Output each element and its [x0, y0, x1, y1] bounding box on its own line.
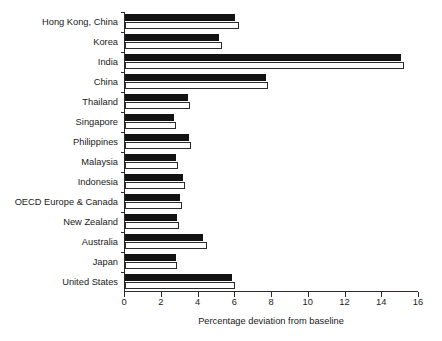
- bar-pair: [125, 112, 418, 132]
- bar-pair: [125, 172, 418, 192]
- bar-series-2: [125, 82, 268, 89]
- category-label: Australia: [0, 232, 118, 252]
- bar-group: [125, 232, 418, 252]
- x-axis-tick: [345, 292, 346, 297]
- bar-pair: [125, 252, 418, 272]
- x-axis-tick: [308, 292, 309, 297]
- bar-series-1: [125, 54, 401, 61]
- bar-series-1: [125, 234, 203, 241]
- bar-series-2: [125, 242, 207, 249]
- x-axis-tick-label: 8: [256, 297, 286, 307]
- bar-chart: Hong Kong, ChinaKoreaIndiaChinaThailandS…: [0, 0, 442, 341]
- category-axis-labels: Hong Kong, ChinaKoreaIndiaChinaThailandS…: [0, 12, 120, 292]
- category-label: Indonesia: [0, 172, 118, 192]
- bar-pair: [125, 212, 418, 232]
- bar-series-2: [125, 162, 178, 169]
- bar-series-2: [125, 102, 190, 109]
- bar-group: [125, 172, 418, 192]
- bar-group: [125, 192, 418, 212]
- bar-series-2: [125, 62, 404, 69]
- bar-group: [125, 132, 418, 152]
- bar-series-2: [125, 282, 235, 289]
- x-axis-tick: [198, 292, 199, 297]
- plot-area: [124, 12, 418, 292]
- bar-pair: [125, 52, 418, 72]
- bar-series-1: [125, 14, 235, 21]
- bar-series-2: [125, 202, 182, 209]
- bar-pair: [125, 192, 418, 212]
- bar-series-1: [125, 34, 219, 41]
- x-axis-tick: [381, 292, 382, 297]
- x-axis-tick: [271, 292, 272, 297]
- category-label: Japan: [0, 252, 118, 272]
- bar-series-2: [125, 22, 239, 29]
- bar-group: [125, 272, 418, 292]
- bar-series-2: [125, 142, 191, 149]
- bar-series-1: [125, 74, 266, 81]
- x-axis-title: Percentage deviation from baseline: [124, 316, 418, 326]
- bar-pair: [125, 272, 418, 292]
- bar-series-1: [125, 194, 180, 201]
- x-axis-tick-label: 14: [366, 297, 396, 307]
- bar-series-1: [125, 134, 189, 141]
- bar-group: [125, 152, 418, 172]
- bar-group: [125, 12, 418, 32]
- bar-group: [125, 72, 418, 92]
- category-label: Hong Kong, China: [0, 12, 118, 32]
- bar-series-2: [125, 182, 185, 189]
- category-label: United States: [0, 272, 118, 292]
- category-label: India: [0, 52, 118, 72]
- category-label: New Zealand: [0, 212, 118, 232]
- bar-series-1: [125, 274, 232, 281]
- bar-series-1: [125, 154, 176, 161]
- bar-series-1: [125, 114, 174, 121]
- bar-pair: [125, 92, 418, 112]
- bar-pair: [125, 232, 418, 252]
- bar-pair: [125, 32, 418, 52]
- bar-series-2: [125, 122, 176, 129]
- bar-pair: [125, 12, 418, 32]
- bar-series-2: [125, 222, 179, 229]
- bar-group: [125, 52, 418, 72]
- bar-pair: [125, 152, 418, 172]
- bar-pair: [125, 132, 418, 152]
- x-axis-tick-label: 2: [146, 297, 176, 307]
- category-label: Malaysia: [0, 152, 118, 172]
- category-label: China: [0, 72, 118, 92]
- category-label: Thailand: [0, 92, 118, 112]
- x-axis-tick-label: 0: [109, 297, 139, 307]
- category-label: OECD Europe & Canada: [0, 192, 118, 212]
- x-axis-tick: [234, 292, 235, 297]
- bar-group: [125, 32, 418, 52]
- bar-series-1: [125, 254, 176, 261]
- bar-series-1: [125, 214, 177, 221]
- bar-group: [125, 252, 418, 272]
- x-axis-tick: [124, 292, 125, 297]
- bar-pair: [125, 72, 418, 92]
- bar-series-1: [125, 174, 183, 181]
- bar-series-2: [125, 42, 222, 49]
- bar-series-1: [125, 94, 188, 101]
- x-axis-tick-label: 6: [219, 297, 249, 307]
- category-label: Singapore: [0, 112, 118, 132]
- bar-group: [125, 112, 418, 132]
- category-label: Philippines: [0, 132, 118, 152]
- category-label: Korea: [0, 32, 118, 52]
- x-axis-tick-label: 16: [403, 297, 433, 307]
- bar-group: [125, 212, 418, 232]
- x-axis-tick: [161, 292, 162, 297]
- bar-series-2: [125, 262, 177, 269]
- bar-group: [125, 92, 418, 112]
- x-axis-tick: [418, 292, 419, 297]
- x-axis-tick-label: 10: [293, 297, 323, 307]
- x-axis-tick-label: 12: [330, 297, 360, 307]
- x-axis-tick-label: 4: [183, 297, 213, 307]
